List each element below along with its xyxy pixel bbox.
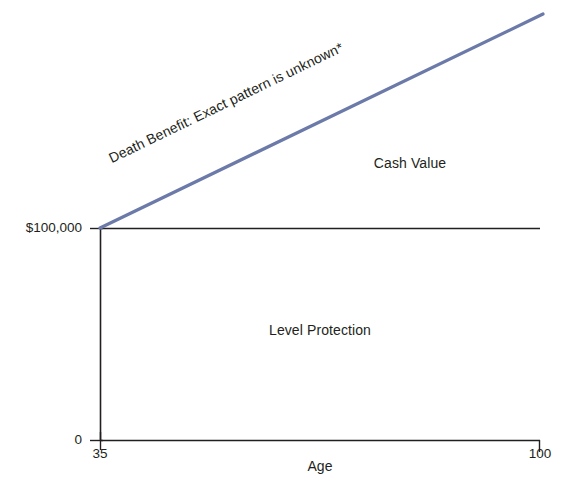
x-axis-title: Age [240, 458, 400, 474]
level-protection-region-label: Level Protection [240, 322, 400, 338]
x-axis-tick-label-35: 35 [70, 446, 130, 461]
y-axis-tick-label-zero: 0 [0, 432, 82, 447]
cash-value-region-label: Cash Value [345, 155, 475, 171]
x-axis-tick-label-100: 100 [510, 446, 570, 461]
y-axis-tick-label-100000: $100,000 [0, 220, 82, 235]
life-insurance-chart: Death Benefit: Exact pattern is unknown*… [0, 0, 575, 500]
